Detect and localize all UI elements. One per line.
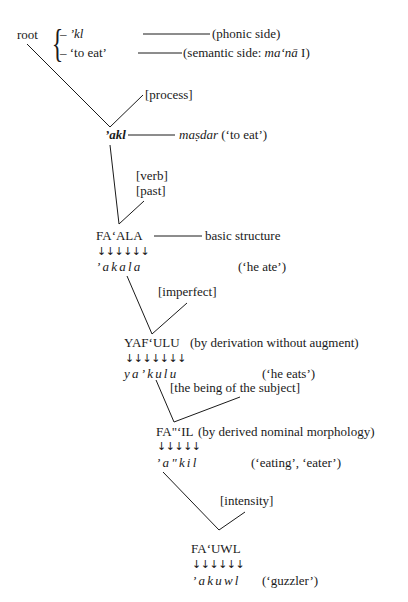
realization-akil: ’a"kil bbox=[156, 456, 198, 470]
masdar-label: maṣdar (‘to eat’) bbox=[179, 128, 267, 142]
feature-intensity: [intensity] bbox=[220, 494, 273, 508]
line-intensity bbox=[219, 512, 245, 530]
realization-akala: ’akala bbox=[96, 260, 142, 274]
note-derivation-without-augment: (by derivation without augment) bbox=[190, 336, 359, 350]
root-branch-semantic: – ‘to eat’ bbox=[60, 46, 107, 60]
feature-verb: [verb] bbox=[136, 169, 168, 183]
root-consonants: ’kl bbox=[70, 26, 84, 41]
pattern-faala: FA‘ALA bbox=[96, 229, 143, 243]
pattern-fauwl: FA‘UWL bbox=[191, 542, 241, 556]
line-akil-fauwl bbox=[163, 472, 219, 530]
line-verb-past bbox=[119, 201, 144, 224]
realization-yakulu: ya’kulu bbox=[124, 367, 178, 381]
root-meaning: ‘to eat’ bbox=[70, 45, 107, 60]
node-akl: ’akl bbox=[105, 128, 126, 142]
arrows-faail: ↓↓↓↓↓ bbox=[157, 441, 201, 452]
line-akl-faala bbox=[110, 145, 119, 224]
feature-being-of-subject: [the being of the subject] bbox=[170, 381, 300, 395]
line-process bbox=[110, 95, 143, 127]
arrows-fauwl: ↓↓↓↓↓↓ bbox=[192, 559, 244, 570]
gloss-he-ate: (‘he ate’) bbox=[238, 260, 286, 274]
semantic-side-label: (semantic side: ma‘nā I) bbox=[183, 46, 310, 60]
phonic-side-label: (phonic side) bbox=[212, 27, 280, 41]
pattern-faail: FA"‘IL bbox=[156, 425, 194, 439]
line-akala-yafulu bbox=[127, 276, 152, 334]
root-label: root bbox=[17, 28, 38, 42]
root-branch-phonic: – ’kl bbox=[60, 27, 83, 41]
pattern-yafulu: YAF‘ULU bbox=[124, 336, 180, 350]
line-imperfect bbox=[152, 303, 187, 334]
feature-past: [past] bbox=[136, 184, 166, 198]
line-being-subject bbox=[174, 397, 240, 422]
gloss-he-eats: (‘he eats’) bbox=[262, 367, 315, 381]
note-derived-nominal-morphology: (by derived nominal morphology) bbox=[198, 425, 375, 439]
diagram-lines bbox=[0, 0, 408, 602]
realization-akuwl: ’akuwl bbox=[192, 574, 241, 588]
gloss-guzzler: (‘guzzler’) bbox=[262, 574, 318, 588]
arrows-yafulu: ↓↓↓↓↓↓↓ bbox=[125, 353, 186, 364]
gloss-eating-eater: (‘eating’, ‘eater’) bbox=[251, 456, 341, 470]
arrows-faala: ↓↓↓↓↓↓ bbox=[97, 246, 149, 257]
note-basic-structure: basic structure bbox=[205, 229, 280, 243]
feature-process: [process] bbox=[145, 88, 193, 102]
feature-imperfect: [imperfect] bbox=[158, 285, 216, 299]
